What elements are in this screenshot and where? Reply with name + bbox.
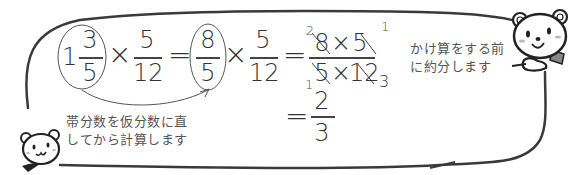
bear-pointing-icon — [508, 6, 578, 76]
note-reduce-first-line2: に約分します — [410, 58, 505, 76]
note-convert-mixed-line2: してから計算します — [66, 131, 188, 149]
result-bar — [311, 116, 335, 118]
equals-sign-3: = — [285, 102, 307, 130]
bear-with-scarf-icon — [18, 128, 68, 174]
result-numerator: 2 — [312, 89, 332, 113]
note-reduce-first-line1: かけ算をする前 — [410, 40, 505, 58]
note-convert-mixed-line1: 帯分数を仮分数に直 — [66, 113, 188, 131]
note-convert-mixed: 帯分数を仮分数に直 してから計算します — [66, 113, 188, 149]
note-reduce-first: かけ算をする前 に約分します — [410, 40, 505, 76]
result-denominator: 3 — [312, 121, 332, 145]
